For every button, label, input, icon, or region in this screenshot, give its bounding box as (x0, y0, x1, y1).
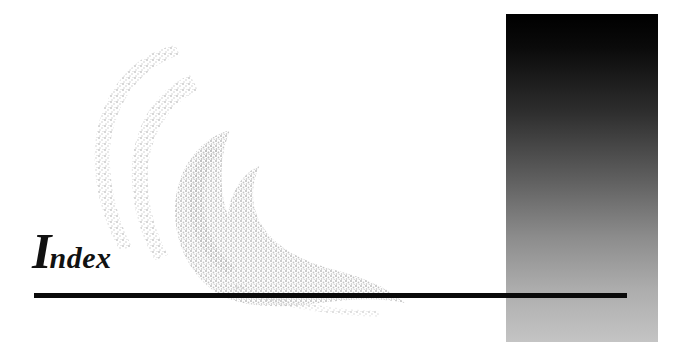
title-rest: ndex (49, 241, 111, 274)
index-title: Index (32, 226, 111, 276)
stippled-swirl-decoration (80, 35, 410, 325)
horizontal-rule (34, 293, 627, 298)
